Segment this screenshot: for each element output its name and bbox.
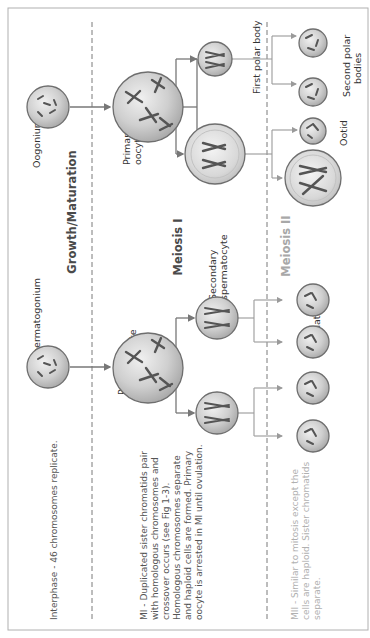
svg-text:MI - Duplicated sister chromat: MI - Duplicated sister chromatids pair xyxy=(139,451,149,620)
cell-secondary-spermatocyte-1 xyxy=(196,297,238,339)
svg-text:oocyte is arrested in MI until: oocyte is arrested in MI until ovulation… xyxy=(194,445,204,621)
note-mi: MI - Duplicated sister chromatids pair w… xyxy=(139,445,204,621)
cell-spermatogonium xyxy=(27,346,69,388)
cell-first-polar-body xyxy=(198,42,232,76)
cell-spermatid-1 xyxy=(297,284,329,316)
label-second-polar-bodies-1: Second polar xyxy=(341,35,352,97)
cell-secondary-spermatocyte-2 xyxy=(196,392,238,434)
svg-text:separate.: separate. xyxy=(312,577,322,620)
phase-label-growth: Growth/Maturation xyxy=(65,150,79,273)
label-ootid: Ootid xyxy=(338,120,349,146)
svg-text:cells are haploid. Sister chro: cells are haploid. Sister chromatids xyxy=(301,461,311,620)
label-second-polar-bodies-2: bodies xyxy=(352,53,363,84)
cell-primary-spermatocyte xyxy=(113,333,183,403)
label-secondary-spermatocyte-1: Secondary xyxy=(207,249,218,300)
svg-text:and haploid cells are formed.: and haploid cells are formed. Primary xyxy=(183,450,193,620)
note-mii: MII - Similar to mitosis except the cell… xyxy=(290,461,322,620)
label-secondary-spermatocyte-2: spermatocyte xyxy=(218,234,229,300)
cell-oogonium xyxy=(27,86,69,128)
phase-label-meiosis1: Meiosis I xyxy=(171,218,185,275)
svg-text:MII - Similar to mitosis excep: MII - Similar to mitosis except the xyxy=(290,469,300,620)
cell-spermatid-2 xyxy=(297,326,329,358)
svg-text:crossover occurs (see Fig 1-3): crossover occurs (see Fig 1-3). xyxy=(161,483,171,620)
cell-ovum xyxy=(285,150,341,206)
cell-ootid xyxy=(300,118,326,144)
cell-spermatid-3 xyxy=(297,372,329,404)
phase-label-meiosis2: Meiosis II xyxy=(279,215,293,276)
svg-text:with homologous chromosomes an: with homologous chromosomes and xyxy=(150,457,160,620)
cell-second-polar-body-2 xyxy=(299,78,327,106)
cell-primary-oocyte xyxy=(113,72,183,142)
label-first-polar-body: First polar body xyxy=(251,20,262,94)
svg-text:Homologous chromosomes separat: Homologous chromosomes separate xyxy=(172,455,182,620)
note-interphase: Interphase - 46 chromosomes replicate. xyxy=(49,440,59,620)
cell-secondary-oocyte xyxy=(185,124,245,184)
gametogenesis-diagram: Growth/Maturation Meiosis I Meiosis II I… xyxy=(0,0,370,638)
cell-spermatid-4 xyxy=(297,420,329,452)
cell-second-polar-body-1 xyxy=(299,29,327,57)
phase-labels: Growth/Maturation Meiosis I Meiosis II xyxy=(65,150,293,276)
